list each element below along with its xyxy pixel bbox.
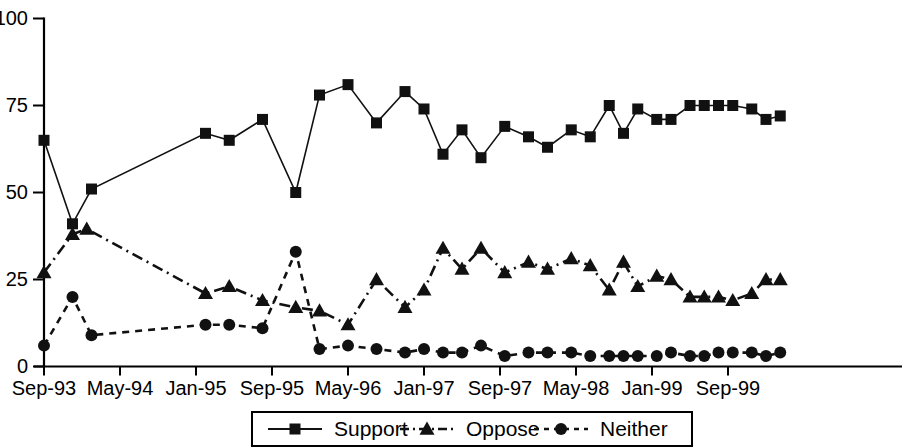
series-layer xyxy=(37,79,788,362)
data-point-support xyxy=(457,124,468,135)
x-tick-label: Sep-97 xyxy=(468,377,533,399)
data-point-support xyxy=(542,142,553,153)
data-point-oppose xyxy=(288,300,303,313)
chart-legend: SupportOpposeNeither xyxy=(252,412,692,446)
data-point-support xyxy=(257,114,268,125)
data-point-neither xyxy=(584,350,596,362)
data-point-neither xyxy=(499,350,511,362)
data-point-neither xyxy=(437,347,449,359)
data-point-support xyxy=(746,103,757,114)
data-point-support xyxy=(685,100,696,111)
data-point-oppose xyxy=(222,279,237,292)
data-point-neither xyxy=(618,350,630,362)
data-point-neither xyxy=(651,350,663,362)
data-point-neither xyxy=(418,343,430,355)
data-point-oppose xyxy=(564,251,579,264)
data-point-support xyxy=(39,135,50,146)
data-point-neither xyxy=(86,329,98,341)
data-point-oppose xyxy=(616,255,631,268)
data-point-oppose xyxy=(773,272,788,285)
data-point-oppose xyxy=(369,272,384,285)
x-tick-label: Jan-95 xyxy=(165,377,226,399)
legend-label-support: Support xyxy=(334,417,408,440)
data-point-neither xyxy=(698,350,710,362)
data-point-neither xyxy=(713,347,725,359)
y-axis-ticks: 0255075100 xyxy=(0,7,44,377)
data-point-support xyxy=(86,184,97,195)
data-point-oppose xyxy=(649,269,664,282)
data-point-oppose xyxy=(664,272,679,285)
data-point-neither xyxy=(603,350,615,362)
data-point-support xyxy=(775,110,786,121)
x-tick-label: Jan-99 xyxy=(621,377,682,399)
y-tick-label: 100 xyxy=(0,7,28,29)
x-tick-label: May-96 xyxy=(315,377,382,399)
y-tick-label: 0 xyxy=(17,355,28,377)
data-point-neither xyxy=(632,350,644,362)
series-neither xyxy=(38,246,786,362)
data-point-neither xyxy=(67,291,79,303)
legend-label-neither: Neither xyxy=(600,417,668,440)
data-point-neither xyxy=(399,347,411,359)
data-point-oppose xyxy=(436,241,451,254)
data-point-support xyxy=(438,149,449,160)
data-point-oppose xyxy=(198,286,213,299)
data-point-neither xyxy=(665,347,677,359)
data-point-oppose xyxy=(497,265,512,278)
x-tick-label: May-94 xyxy=(87,377,154,399)
data-point-oppose xyxy=(417,282,432,295)
data-point-support xyxy=(419,103,430,114)
data-point-neither xyxy=(290,246,302,258)
data-point-neither xyxy=(565,347,577,359)
data-point-support xyxy=(727,100,738,111)
data-point-neither xyxy=(200,319,212,331)
data-point-support xyxy=(400,86,411,97)
series-support xyxy=(39,79,786,229)
legend-marker-circle-icon xyxy=(555,423,567,435)
data-point-support xyxy=(713,100,724,111)
data-point-support xyxy=(200,128,211,139)
data-point-neither xyxy=(38,340,50,352)
chart-container: 0255075100 Sep-93May-94Jan-95Sep-95May-9… xyxy=(0,0,911,448)
data-point-neither xyxy=(314,343,326,355)
data-point-support xyxy=(585,131,596,142)
data-point-support xyxy=(761,114,772,125)
data-point-neither xyxy=(223,319,235,331)
data-point-oppose xyxy=(711,289,726,302)
data-point-oppose xyxy=(474,241,489,254)
data-point-oppose xyxy=(341,317,356,330)
data-point-neither xyxy=(760,350,772,362)
data-point-support xyxy=(290,187,301,198)
data-point-support xyxy=(566,124,577,135)
x-tick-label: May-98 xyxy=(543,377,610,399)
data-point-support xyxy=(343,79,354,90)
data-point-neither xyxy=(371,343,383,355)
data-point-oppose xyxy=(744,286,759,299)
data-point-oppose xyxy=(630,279,645,292)
data-point-oppose xyxy=(79,222,94,235)
x-tick-label: Sep-95 xyxy=(240,377,305,399)
data-point-oppose xyxy=(521,255,536,268)
x-axis-ticks: Sep-93May-94Jan-95Sep-95May-96Jan-97Sep-… xyxy=(12,367,761,399)
data-point-support xyxy=(699,100,710,111)
data-point-support xyxy=(499,121,510,132)
y-tick-label: 75 xyxy=(6,94,28,116)
data-point-support xyxy=(371,117,382,128)
data-point-neither xyxy=(774,347,786,359)
data-point-neither xyxy=(456,347,468,359)
data-point-neither xyxy=(746,347,758,359)
x-tick-label: Sep-99 xyxy=(696,377,761,399)
data-point-neither xyxy=(523,347,535,359)
x-tick-label: Jan-97 xyxy=(393,377,454,399)
series-oppose xyxy=(37,222,788,331)
data-point-oppose xyxy=(398,300,413,313)
legend-marker-square-icon xyxy=(290,424,301,435)
data-point-neither xyxy=(475,340,487,352)
y-tick-label: 25 xyxy=(6,268,28,290)
data-point-neither xyxy=(257,322,269,334)
data-point-neither xyxy=(684,350,696,362)
data-point-support xyxy=(604,100,615,111)
data-point-neither xyxy=(342,340,354,352)
data-point-support xyxy=(651,114,662,125)
data-point-neither xyxy=(542,347,554,359)
